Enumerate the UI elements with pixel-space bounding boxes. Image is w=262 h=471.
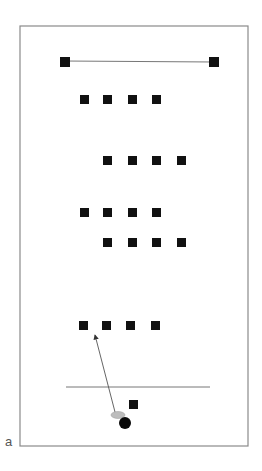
square-marker — [209, 57, 219, 67]
panel-label: a — [5, 434, 12, 449]
square-marker — [80, 95, 89, 104]
diagram-canvas — [0, 0, 262, 471]
square-marker — [152, 156, 161, 165]
square-marker — [128, 208, 137, 217]
square-marker — [128, 156, 137, 165]
square-marker — [80, 208, 89, 217]
square-marker — [177, 156, 186, 165]
arrow-line — [95, 335, 115, 412]
square-marker — [152, 238, 161, 247]
square-marker — [177, 238, 186, 247]
square-marker — [60, 57, 70, 67]
square-marker — [103, 238, 112, 247]
square-marker — [103, 95, 112, 104]
square-marker — [103, 208, 112, 217]
square-marker — [151, 321, 160, 330]
square-marker — [102, 321, 111, 330]
square-marker — [152, 95, 161, 104]
ball-icon — [119, 417, 131, 429]
square-marker — [128, 95, 137, 104]
single-marker — [129, 400, 138, 409]
square-marker — [103, 156, 112, 165]
square-marker — [128, 238, 137, 247]
square-marker — [79, 321, 88, 330]
square-marker — [152, 208, 161, 217]
marker-rows — [79, 95, 186, 330]
square-marker — [126, 321, 135, 330]
diagram-frame — [20, 26, 248, 446]
top-connecting-line — [64, 61, 214, 62]
